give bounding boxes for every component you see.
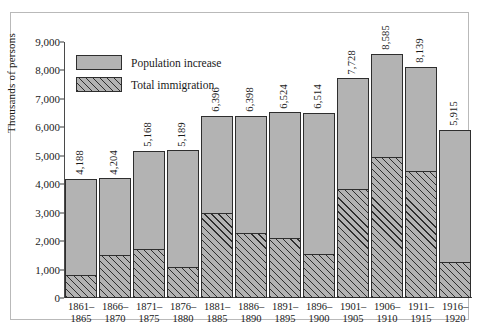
bar-population-increase	[303, 113, 335, 298]
bar-total-immigration	[99, 255, 131, 298]
bar-value-label-population: 4,188	[75, 150, 86, 175]
chart-frame: Thousands of persons 01,0002,0003,0004,0…	[10, 12, 469, 320]
bar-slot: 6,3982,271	[234, 42, 268, 298]
bar-total-immigration	[133, 249, 165, 298]
bar-value-label-population: 6,524	[279, 84, 290, 109]
bar-total-immigration	[235, 233, 267, 298]
bar-population-increase	[371, 54, 403, 298]
bar-population-increase	[167, 150, 199, 298]
y-axis-title: Thousands of persons	[5, 3, 17, 163]
x-axis-category-label: 1906–1910	[370, 301, 404, 325]
x-axis-category-label: 1871–1875	[132, 301, 166, 325]
x-axis-category-label: 1866–1870	[98, 301, 132, 325]
bar-total-immigration	[167, 267, 199, 298]
bar-value-label-population: 5,189	[177, 122, 188, 147]
bar-population-increase	[133, 151, 165, 298]
bar-population-increase	[405, 67, 437, 299]
bar-slot: 7,7283,833	[336, 42, 370, 298]
bar-value-label-population: 8,585	[381, 25, 392, 50]
bar-value-label-population: 6,514	[313, 84, 324, 109]
x-axis-category-label: 1901–1905	[336, 301, 370, 325]
bar-population-increase	[201, 116, 233, 298]
x-axis-category-label: 1881–1885	[200, 301, 234, 325]
x-axis-category-label: 1911–1915	[404, 301, 438, 325]
x-axis-labels: 1861–18651866–18701871–18751876–18801881…	[64, 301, 472, 325]
legend-swatch-hatched	[76, 77, 122, 92]
bar-total-immigration	[269, 238, 301, 298]
bar-total-immigration	[405, 171, 437, 298]
bar-value-label-population: 5,168	[143, 122, 154, 147]
bar-total-immigration	[201, 213, 233, 298]
bar-population-increase	[99, 178, 131, 298]
x-axis-category-label: 1916–1920	[438, 301, 472, 325]
legend-swatch-solid	[76, 55, 122, 70]
x-axis-category-label: 1891–1895	[268, 301, 302, 325]
x-axis-category-label: 1886–1890	[234, 301, 268, 325]
bar-value-label-population: 5,915	[449, 101, 460, 126]
legend-label-total-immigration: Total immigration	[131, 79, 214, 91]
bar-value-label-population: 6,398	[245, 87, 256, 112]
legend: Population increase Total immigration	[76, 55, 221, 99]
bar-total-immigration	[439, 262, 471, 298]
x-axis-category-label: 1876–1880	[166, 301, 200, 325]
bar-total-immigration	[337, 189, 369, 298]
bar-population-increase	[235, 116, 267, 298]
bar-value-label-population: 8,139	[415, 38, 426, 63]
x-axis-category-label: 1861–1865	[64, 301, 98, 325]
bar-population-increase	[269, 112, 301, 298]
bar-total-immigration	[65, 275, 97, 298]
bar-population-increase	[337, 78, 369, 298]
bar-population-increase	[439, 130, 471, 298]
legend-item-total-immigration: Total immigration	[76, 77, 221, 92]
bar-slot: 8,5854,962	[370, 42, 404, 298]
x-axis-category-label: 1896–1900	[302, 301, 336, 325]
legend-item-population-increase: Population increase	[76, 55, 221, 70]
bar-total-immigration	[371, 157, 403, 298]
bar-population-increase	[65, 179, 97, 298]
bar-value-label-population: 7,728	[347, 50, 358, 75]
legend-label-population-increase: Population increase	[131, 57, 221, 69]
bar-slot: 6,5141,564	[302, 42, 336, 298]
bar-slot: 6,5242,124	[268, 42, 302, 298]
bar-value-label-population: 4,204	[109, 150, 120, 175]
bar-slot: 5,9151,276	[438, 42, 472, 298]
bar-total-immigration	[303, 254, 335, 298]
bar-slot: 8,1394,460	[404, 42, 438, 298]
